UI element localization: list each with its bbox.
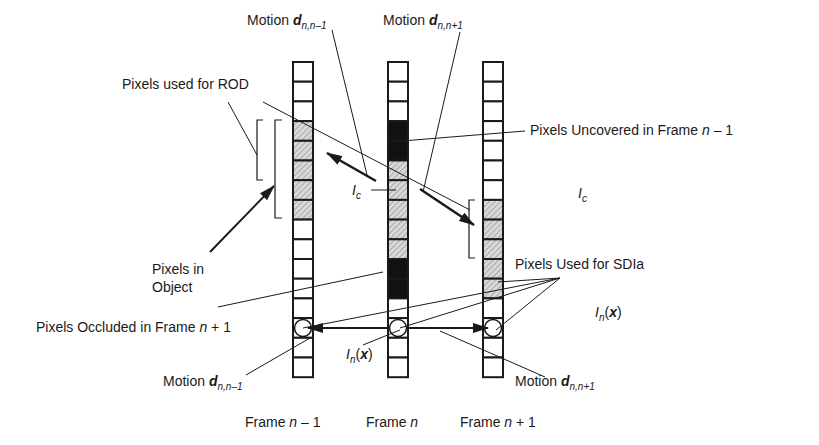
pixel-cell-white [293, 62, 313, 82]
frame-column-frame-n-minus-1 [293, 62, 313, 377]
label-sub: c [356, 190, 361, 201]
pixel-cell-white [293, 358, 313, 378]
label-sub: n,n–1 [217, 381, 242, 392]
frame-label-n-minus-1: Frame n – 1 [245, 414, 321, 430]
label-word: Motion [515, 373, 561, 389]
ic-right-label: Ic [578, 185, 587, 201]
bracket-group [257, 120, 475, 258]
pixel-cell-hatched [293, 200, 313, 220]
pixel-cell-white [483, 161, 503, 181]
pixels-uncovered-label: Pixels Uncovered in Frame n – 1 [530, 122, 733, 138]
pixel-cell-hatched [388, 239, 408, 259]
pixel-cell-white [483, 358, 503, 378]
motion-diagram [0, 0, 819, 445]
pixel-cell-white [483, 121, 503, 141]
frame-column-frame-n [388, 62, 408, 377]
label-sub: n,n+1 [437, 20, 462, 31]
pixels-sdia-label: Pixels Used for SDIa [515, 256, 644, 272]
label-sub: c [582, 193, 587, 204]
pixel-cell-white [388, 358, 408, 378]
pixel-cell-white [483, 101, 503, 121]
pixel-cell-white [483, 62, 503, 82]
label-word: Motion [383, 12, 429, 28]
label-text: Frame [366, 414, 410, 430]
ic-center-label: Ic [352, 182, 361, 198]
in-x-center-label: In(x) [346, 346, 373, 362]
label-arg: x [360, 346, 368, 362]
pixel-cell-white [483, 82, 503, 102]
label-text: – 1 [297, 414, 320, 430]
pixel-cell-white [388, 62, 408, 82]
pixel-cell-hatched [293, 180, 313, 200]
pixel-cell-white [293, 298, 313, 318]
label-word: Motion [247, 12, 293, 28]
pixel-cell-white [293, 82, 313, 102]
label-text: Frame [245, 414, 289, 430]
label-var: n [504, 414, 512, 430]
pixel-cell-white [483, 141, 503, 161]
label-text: – 1 [710, 122, 733, 138]
label-word: Motion [163, 373, 209, 389]
pixel-cell-hatched [293, 161, 313, 181]
pixel-cell-white [293, 259, 313, 279]
label-text: Frame [460, 414, 504, 430]
motion-top-left-label: Motion dn,n–1 [247, 12, 327, 28]
pixel-cell-black [388, 121, 408, 141]
pixel-cell-white [483, 180, 503, 200]
pixel-cell-hatched [388, 161, 408, 181]
pixel-cell-white [293, 101, 313, 121]
label-arg: x [609, 304, 617, 320]
frame-label-n: Frame n [366, 414, 418, 430]
in-x-right-label: In(x) [595, 304, 622, 320]
pixels-rod-label: Pixels used for ROD [122, 76, 249, 92]
pixel-cell-hatched [293, 121, 313, 141]
pixel-cell-black [388, 141, 408, 161]
pixel-cell-white [293, 338, 313, 358]
pixel-cell-white [293, 239, 313, 259]
pixel-cell-black [388, 279, 408, 299]
label-text: + 1 [512, 414, 536, 430]
pixel-cell-white [293, 220, 313, 240]
motion-top-right-label: Motion dn,n+1 [383, 12, 463, 28]
pixel-cell-hatched [483, 220, 503, 240]
label-var: n [702, 122, 710, 138]
pixel-cell-white [388, 101, 408, 121]
motion-bottom-left-label: Motion dn,n–1 [163, 373, 243, 389]
label-line: Pixels in [152, 260, 204, 278]
pixel-cell-hatched [483, 200, 503, 220]
pixel-cell-hatched [483, 239, 503, 259]
label-var: n [289, 414, 297, 430]
label-text: Pixels Occluded in Frame [36, 319, 199, 335]
pixel-cell-hatched [388, 200, 408, 220]
pixels-occluded-label: Pixels Occluded in Frame n + 1 [36, 319, 231, 335]
annotation-lines [210, 30, 560, 377]
label-paren: ) [368, 346, 373, 362]
label-sub: n,n+1 [569, 381, 594, 392]
label-var: n [410, 414, 418, 430]
pixel-cell-hatched [388, 220, 408, 240]
pixel-cell-white [388, 82, 408, 102]
frame-columns [293, 62, 503, 377]
pixels-in-object-label: Pixels in Object [152, 260, 204, 296]
label-line: Object [152, 278, 204, 296]
motion-bottom-right-label: Motion dn,n+1 [515, 373, 595, 389]
pixel-circle-icon [390, 319, 407, 336]
pixel-cell-hatched [293, 141, 313, 161]
label-text: Pixels Uncovered in Frame [530, 122, 702, 138]
label-sub: n,n–1 [301, 20, 326, 31]
label-text: + 1 [207, 319, 231, 335]
frame-label-n-plus-1: Frame n + 1 [460, 414, 536, 430]
pixel-cell-hatched [483, 259, 503, 279]
label-paren: ) [617, 304, 622, 320]
pixel-cell-white [388, 338, 408, 358]
pixel-cell-black [388, 259, 408, 279]
frame-column-frame-n-plus-1 [483, 62, 503, 377]
